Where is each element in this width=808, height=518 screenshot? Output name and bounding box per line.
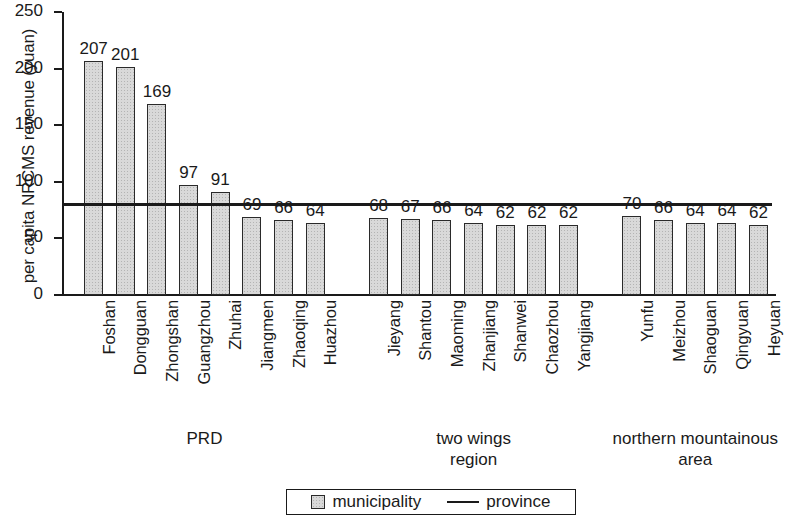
x-label-foshan: Foshan [100,300,119,354]
legend-label-municipality: municipality [332,492,421,512]
y-tick-200: 200 [54,68,62,70]
bar [717,223,736,295]
bar-group: 66 [274,12,293,295]
bar [401,219,420,295]
y-tick-0: 0 [54,294,62,296]
x-label-guangzhou: Guangzhou [195,300,214,384]
bar [211,192,230,295]
bar-value-label: 66 [274,198,293,218]
bar [527,225,546,295]
bar-group: 66 [432,12,451,295]
x-label-qingyuan: Qingyuan [733,300,752,370]
bar [749,225,768,295]
bar [432,220,451,295]
x-label-jieyang: Jieyang [385,300,404,356]
bar [622,216,641,295]
bar-group: 62 [749,12,768,295]
bar-group: 62 [527,12,546,295]
bar-value-label: 66 [654,198,673,218]
bar-value-label: 97 [179,163,198,183]
bar-value-label: 207 [79,39,107,59]
x-label-heyuan: Heyuan [765,300,784,356]
bar [654,220,673,295]
y-tick-label-0: 0 [34,284,43,304]
y-tick-100: 100 [54,181,62,183]
chart-legend: municipality province [286,489,576,515]
bar [306,223,325,295]
bar [116,67,135,295]
bar-group: 201 [116,12,135,295]
x-label-shaoguan: Shaoguan [701,300,720,374]
x-label-jiangmen: Jiangmen [258,300,277,371]
x-label-meizhou: Meizhou [670,300,689,362]
bar-value-label: 169 [143,82,171,102]
x-label-zhanjiang: Zhanjiang [480,300,499,372]
province-line-icon [447,501,479,504]
plot-area: 050100150200250 207201169979169666468676… [62,12,776,295]
x-label-zhuhai: Zhuhai [226,300,245,350]
x-label-maoming: Maoming [448,300,467,367]
y-tick-label-250: 250 [15,1,43,21]
bar [496,225,515,295]
bar-group: 62 [496,12,515,295]
province-reference-line [62,203,772,205]
x-label-zhongshan: Zhongshan [163,300,182,382]
x-label-shantou: Shantou [416,300,435,361]
municipality-swatch-icon [311,495,325,509]
bar-group: 207 [84,12,103,295]
bar-group: 64 [464,12,483,295]
legend-label-province: province [486,492,550,512]
bar-value-label: 66 [432,198,451,218]
bar [464,223,483,295]
bar [559,225,578,295]
x-label-huazhou: Huazhou [321,300,340,365]
y-tick-label-50: 50 [24,227,43,247]
bar-group: 64 [306,12,325,295]
bar-value-label: 67 [401,197,420,217]
bar [369,218,388,295]
bar-value-label: 62 [749,203,768,223]
y-tick-label-100: 100 [15,170,43,190]
x-label-yangjiang: Yangjiang [575,300,594,371]
bar-group: 66 [654,12,673,295]
bars-layer: 2072011699791696664686766646262627066646… [62,12,776,295]
bar-group: 69 [242,12,261,295]
y-tick-250: 250 [54,11,62,13]
group-label-2: northern mountainous area [565,428,808,470]
x-label-dongguan: Dongguan [131,300,150,375]
bar-value-label: 201 [111,45,139,65]
y-axis-title: per capita NRCMS revenue (yuan) [19,6,39,306]
bar-value-label: 91 [211,170,230,190]
group-label-0: PRD [74,428,334,449]
y-tick-label-200: 200 [15,57,43,77]
bar-group: 64 [717,12,736,295]
x-label-zhaoqing: Zhaoqing [290,300,309,368]
bar [147,104,166,295]
legend-item-municipality: municipality [311,492,421,512]
bar-group: 68 [369,12,388,295]
bar-value-label: 62 [496,203,515,223]
bar-group: 97 [179,12,198,295]
bar [179,185,198,295]
bar-group: 62 [559,12,578,295]
bar-value-label: 62 [527,203,546,223]
bar-group: 70 [622,12,641,295]
bar-group: 91 [211,12,230,295]
bar [686,223,705,295]
bar-group: 169 [147,12,166,295]
bar-value-label: 62 [559,203,578,223]
nrcms-revenue-bar-chart: per capita NRCMS revenue (yuan) 05010015… [0,0,808,518]
x-label-shanwei: Shanwei [511,300,530,363]
bar [242,217,261,295]
legend-item-province: province [447,492,550,512]
y-tick-label-150: 150 [15,114,43,134]
y-tick-50: 50 [54,237,62,239]
x-label-chaozhou: Chaozhou [543,300,562,374]
x-label-yunfu: Yunfu [638,300,657,342]
bar-group: 64 [686,12,705,295]
bar [274,220,293,295]
bar-value-label: 68 [369,196,388,216]
bar [84,61,103,295]
y-tick-150: 150 [54,124,62,126]
bar-group: 67 [401,12,420,295]
